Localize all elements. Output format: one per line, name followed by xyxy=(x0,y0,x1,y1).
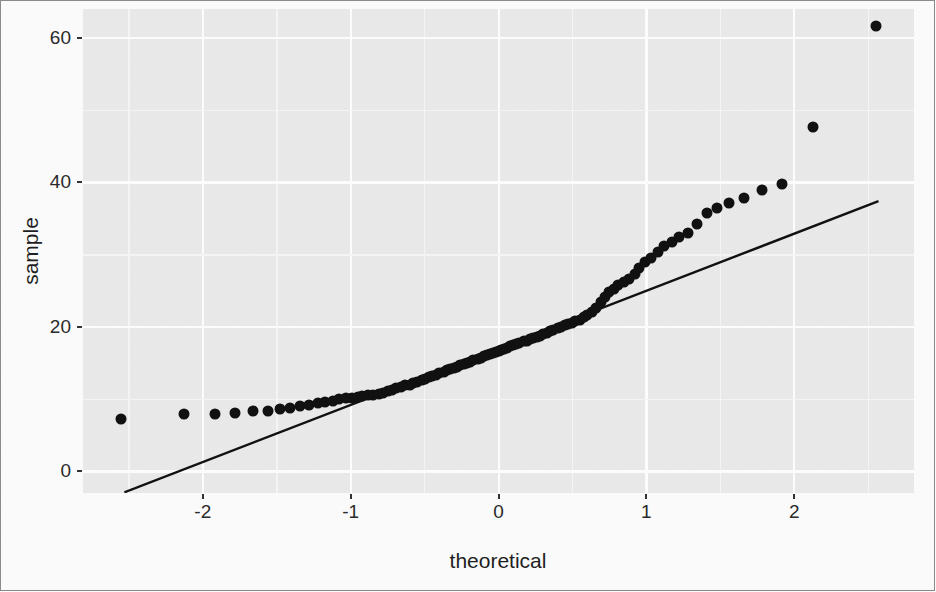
y-axis-tick-label: 20 xyxy=(50,316,71,338)
data-point xyxy=(230,407,241,418)
data-point xyxy=(712,203,723,214)
y-axis-title: sample xyxy=(19,217,43,285)
data-point xyxy=(724,197,735,208)
data-point xyxy=(808,122,819,133)
x-axis-tick xyxy=(793,494,795,499)
x-axis-tick xyxy=(645,494,647,499)
x-axis-tick xyxy=(498,494,500,499)
data-point xyxy=(682,227,693,238)
x-axis-tick xyxy=(350,494,352,499)
data-point xyxy=(701,207,712,218)
data-point xyxy=(777,178,788,189)
y-axis-tick xyxy=(77,470,82,472)
y-axis-tick xyxy=(77,326,82,328)
x-axis-tick-label: 1 xyxy=(641,501,652,523)
data-point xyxy=(248,406,259,417)
data-point xyxy=(209,408,220,419)
x-axis-tick-label: 2 xyxy=(789,501,800,523)
x-axis-tick xyxy=(202,494,204,499)
y-axis-tick-label: 0 xyxy=(60,460,71,482)
data-point xyxy=(756,184,767,195)
data-point xyxy=(116,414,127,425)
x-axis-title: theoretical xyxy=(450,549,547,573)
data-point xyxy=(738,193,749,204)
x-axis-tick-label: 0 xyxy=(493,501,504,523)
plot-panel xyxy=(83,9,914,493)
y-axis-tick xyxy=(77,37,82,39)
data-point xyxy=(178,409,189,420)
data-point xyxy=(870,21,881,32)
y-axis-tick-label: 60 xyxy=(50,27,71,49)
x-axis-tick-label: -1 xyxy=(342,501,359,523)
data-point xyxy=(262,405,273,416)
x-axis-tick-label: -2 xyxy=(194,501,211,523)
data-point xyxy=(691,218,702,229)
y-axis-tick xyxy=(77,181,82,183)
y-axis-tick-label: 40 xyxy=(50,171,71,193)
data-point xyxy=(274,404,285,415)
data-point xyxy=(285,402,296,413)
reference-line-layer xyxy=(83,9,914,493)
